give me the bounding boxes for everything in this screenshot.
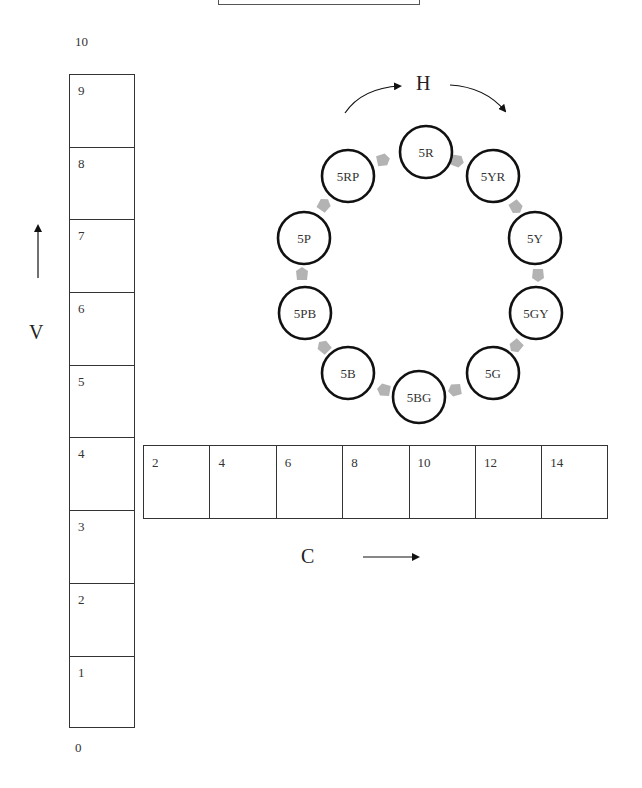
hue-label: 5BG <box>407 390 432 405</box>
hue-node-5rp: 5RP <box>322 150 374 202</box>
diagram-overlay: 5R5YR5Y5GY5G5BG5B5PB5P5RP <box>0 0 642 788</box>
hue-label: 5G <box>485 366 501 381</box>
hue-label: 5RP <box>337 169 359 184</box>
hue-node-5g: 5G <box>467 347 519 399</box>
hue-node-5p: 5P <box>278 212 330 264</box>
hue-node-5b: 5B <box>322 347 374 399</box>
connector-arrow-icon <box>508 199 525 217</box>
hue-node-5bg: 5BG <box>393 371 445 423</box>
hue-label: 5GY <box>523 306 549 321</box>
hue-left-curved-arrow-icon <box>345 86 400 113</box>
hue-label: 5P <box>297 231 311 246</box>
connector-arrow-icon <box>376 153 391 167</box>
hue-node-5pb: 5PB <box>279 287 331 339</box>
hue-label: 5YR <box>481 169 506 184</box>
connector-arrow-icon <box>376 383 391 397</box>
hue-label: 5B <box>340 366 356 381</box>
hue-node-5yr: 5YR <box>467 150 519 202</box>
connector-arrow-icon <box>532 269 544 282</box>
hue-node-5gy: 5GY <box>510 287 562 339</box>
connector-arrow-icon <box>296 267 308 280</box>
hue-node-5r: 5R <box>400 126 452 178</box>
hue-label: 5PB <box>294 306 317 321</box>
hue-circles: 5R5YR5Y5GY5G5BG5B5PB5P5RP <box>278 126 562 423</box>
hue-node-5y: 5Y <box>509 212 561 264</box>
hue-label: 5Y <box>527 231 544 246</box>
connector-arrow-icon <box>316 196 333 214</box>
hue-label: 5R <box>418 145 434 160</box>
connector-arrow-icon <box>447 383 462 397</box>
hue-right-curved-arrow-icon <box>450 85 505 111</box>
